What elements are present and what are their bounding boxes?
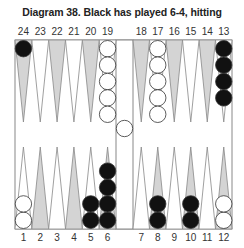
black-checker[interactable] <box>216 73 232 89</box>
white-checker[interactable] <box>99 41 115 57</box>
black-checker[interactable] <box>216 90 232 106</box>
black-checker[interactable] <box>99 196 115 212</box>
white-checker[interactable] <box>99 57 115 73</box>
black-checker[interactable] <box>150 212 166 228</box>
white-checker[interactable] <box>150 41 166 57</box>
white-checker[interactable] <box>150 73 166 89</box>
black-checker[interactable] <box>99 179 115 195</box>
black-checker[interactable] <box>99 163 115 179</box>
black-checker[interactable] <box>99 212 115 228</box>
black-checker[interactable] <box>183 196 199 212</box>
white-checker[interactable] <box>150 106 166 122</box>
black-checker[interactable] <box>216 41 232 57</box>
black-checker[interactable] <box>150 196 166 212</box>
white-checker[interactable] <box>216 212 232 228</box>
black-checker[interactable] <box>183 212 199 228</box>
white-checker[interactable] <box>150 90 166 106</box>
black-checker[interactable] <box>216 57 232 73</box>
white-checker[interactable] <box>99 73 115 89</box>
bar-white-checker[interactable] <box>116 120 132 136</box>
white-checker[interactable] <box>99 106 115 122</box>
white-checker[interactable] <box>99 90 115 106</box>
white-checker[interactable] <box>15 212 31 228</box>
backgammon-board <box>0 0 244 248</box>
white-checker[interactable] <box>216 196 232 212</box>
white-checker[interactable] <box>15 196 31 212</box>
white-checker[interactable] <box>150 57 166 73</box>
black-checker[interactable] <box>83 196 99 212</box>
black-checker[interactable] <box>15 41 31 57</box>
black-checker[interactable] <box>83 212 99 228</box>
